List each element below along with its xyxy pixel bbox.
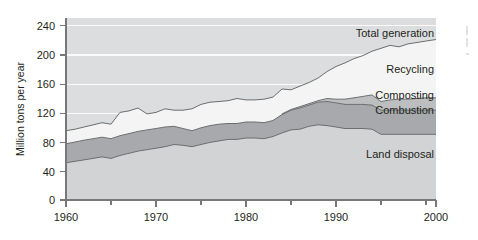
x-tick-marks	[66, 200, 436, 207]
series-label-combustion: Combustion	[375, 104, 434, 116]
series-label-recycling: Recycling	[386, 63, 434, 75]
page-edge-artifact	[466, 26, 469, 55]
y-tick-label-0: 0	[49, 194, 55, 206]
series-label-composting: Composting	[375, 89, 434, 101]
x-tick-label-1960: 1960	[54, 211, 78, 223]
y-tick-label-200: 200	[37, 49, 55, 61]
y-tick-label-240: 240	[37, 20, 55, 32]
stacked-area-chart: 0 40 80 120 160 200 240 1960 1970 1980 1…	[0, 0, 478, 240]
x-tick-label-1970: 1970	[144, 211, 168, 223]
y-tick-label-80: 80	[43, 137, 55, 149]
y-tick-marks	[60, 26, 66, 200]
chart-figure: 0 40 80 120 160 200 240 1960 1970 1980 1…	[0, 0, 478, 240]
y-axis-title: Million tons per year	[14, 62, 26, 156]
y-tick-label-160: 160	[37, 78, 55, 90]
series-label-total-generation: Total generation	[356, 27, 434, 39]
series-label-land-disposal: Land disposal	[366, 148, 434, 160]
x-tick-label-1990: 1990	[324, 211, 348, 223]
y-tick-label-120: 120	[37, 107, 55, 119]
x-tick-label-2000: 2000	[424, 211, 448, 223]
y-tick-label-40: 40	[43, 166, 55, 178]
x-tick-label-1980: 1980	[234, 211, 258, 223]
